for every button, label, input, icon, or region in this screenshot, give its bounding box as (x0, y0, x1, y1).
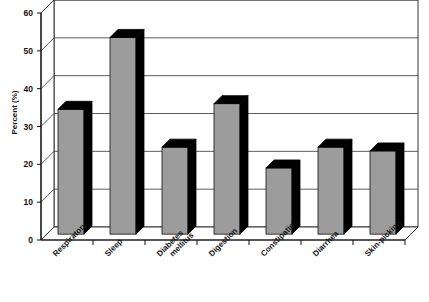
y-axis-tick-label: 30 (13, 122, 33, 132)
bar (214, 96, 248, 235)
bar-chart: Percent (%) 0102030405060 RespiratorySle… (0, 0, 429, 302)
y-axis-tick-label: 50 (13, 46, 33, 56)
y-axis-tick-label: 60 (13, 8, 33, 18)
y-axis-tick-label: 0 (13, 235, 33, 245)
y-axis-tick-label: 20 (13, 159, 33, 169)
bar (58, 101, 92, 234)
y-axis-tick-label: 40 (13, 84, 33, 94)
bar (318, 139, 352, 234)
bar (162, 139, 196, 234)
bar (110, 29, 144, 234)
y-axis-tick-label: 10 (13, 197, 33, 207)
